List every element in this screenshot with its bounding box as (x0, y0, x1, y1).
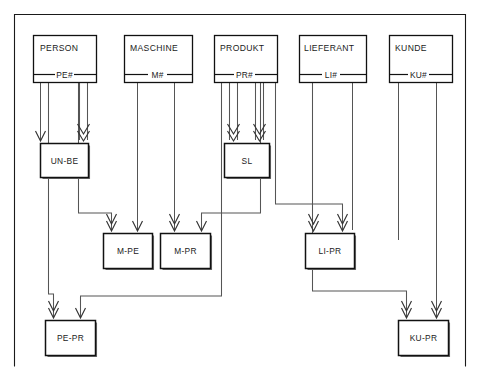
relationship-m-pe[interactable]: M-PE (104, 234, 154, 270)
connector-person-unbe-2 (80, 82, 88, 140)
entity-maschine[interactable]: MASCHINE M# (125, 36, 193, 83)
relationship-pe-pr[interactable]: PE-PR (46, 321, 97, 357)
relationship-m-pr[interactable]: M-PR (161, 234, 212, 270)
relationship-li-pr-label: LI-PR (319, 246, 342, 256)
connector-produkt-pepr (81, 82, 222, 317)
relationship-sl[interactable]: SL (225, 144, 271, 179)
relationship-pe-pr-label: PE-PR (57, 333, 84, 343)
relationship-ku-pr[interactable]: KU-PR (399, 321, 450, 357)
entity-maschine-key: M# (151, 70, 163, 80)
relationship-ku-pr-label: KU-PR (410, 333, 438, 343)
entity-layer: PERSON PE# MASCHINE M# PRODUKT PR# (34, 36, 453, 83)
entity-person[interactable]: PERSON PE# (34, 36, 97, 83)
entity-lieferant-key: LI# (325, 70, 338, 80)
relationship-un-be[interactable]: UN-BE (41, 144, 90, 179)
er-diagram-svg: PERSON PE# MASCHINE M# PRODUKT PR# (0, 0, 480, 379)
connector-produkt-lipr (276, 82, 343, 230)
entity-produkt[interactable]: PRODUKT PR# (215, 36, 278, 83)
entity-maschine-label: MASCHINE (130, 43, 178, 53)
relationship-m-pe-label: M-PE (117, 246, 139, 256)
entity-person-key: PE# (56, 70, 73, 80)
entity-produkt-key: PR# (236, 70, 253, 80)
relationship-layer: UN-BE SL M-PE M-PR (41, 144, 450, 357)
arrowhead-lipr-left (309, 214, 319, 231)
relationship-li-pr[interactable]: LI-PR (306, 234, 356, 270)
connector-produkt-sl-2 (256, 82, 264, 140)
er-diagram-canvas: PERSON PE# MASCHINE M# PRODUKT PR# (0, 0, 480, 379)
relationship-m-pr-label: M-PR (174, 246, 197, 256)
entity-produkt-label: PRODUKT (220, 43, 265, 53)
connector-lieferant-kupr (313, 82, 407, 317)
entity-kunde[interactable]: KUNDE KU# (390, 36, 453, 83)
relationship-sl-label: SL (242, 156, 253, 166)
relationship-un-be-label: UN-BE (51, 156, 79, 166)
entity-lieferant[interactable]: LIEFERANT LI# (300, 36, 367, 83)
entity-kunde-key: KU# (410, 70, 427, 80)
connector-layer (41, 82, 437, 317)
connector-produkt-sl-1 (230, 82, 238, 140)
connector-person-pepr (49, 82, 54, 317)
entity-person-label: PERSON (40, 43, 78, 53)
entity-lieferant-label: LIEFERANT (304, 43, 355, 53)
entity-kunde-label: KUNDE (395, 43, 427, 53)
